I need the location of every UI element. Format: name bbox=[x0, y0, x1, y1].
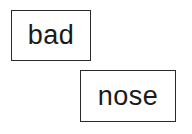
word-box-bad: bad bbox=[11, 10, 91, 61]
word-label: bad bbox=[28, 20, 75, 51]
word-box-nose: nose bbox=[80, 70, 176, 122]
word-label: nose bbox=[98, 81, 159, 112]
